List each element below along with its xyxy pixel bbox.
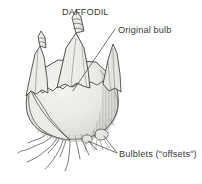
bulblet-right-hatch (103, 44, 121, 92)
bulblet-left-hatch (26, 46, 48, 96)
label-original-bulb: Original bulb (118, 26, 172, 35)
daffodil-bulb-figure: DAFFODIL Original bulb Bulblets ("offset… (0, 0, 202, 184)
bulblet-left-tip (38, 31, 46, 48)
figure-title: DAFFODIL (62, 8, 109, 17)
bulb-group (18, 10, 121, 171)
label-bulblets: Bulblets ("offsets") (119, 150, 197, 159)
